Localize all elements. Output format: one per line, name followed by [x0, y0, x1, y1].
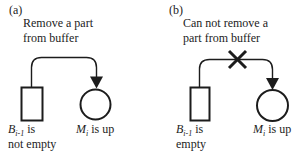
buffer-label-line1: Bi-1 is	[8, 122, 56, 137]
buffer-subscript: i-1	[183, 129, 192, 138]
buffer-label-line1: Bi-1 is	[176, 122, 206, 137]
machine-label-line: Mi is up	[253, 122, 291, 137]
panel-caption: Can not remove a part from buffer	[183, 16, 268, 45]
panel-caption: Remove a part from buffer	[23, 16, 93, 45]
machine-subscript: i	[86, 129, 88, 138]
arrow-path	[200, 60, 273, 88]
buffer-subscript: i-1	[15, 129, 24, 138]
machine-circle	[81, 90, 111, 120]
machine-subscript: i	[263, 129, 265, 138]
arrowhead-icon	[90, 77, 103, 89]
panel-tag: (a)	[9, 3, 22, 17]
buffer-machine-diagram: (a) Remove a part from buffer Bi-1 is no…	[0, 0, 304, 156]
panel-a: (a) Remove a part from buffer Bi-1 is no…	[0, 0, 152, 156]
buffer-label-line2: empty	[176, 137, 206, 152]
panel-b: (b) Can not remove a part from buffer Bi…	[152, 0, 304, 156]
buffer-label-line2: not empty	[8, 137, 56, 152]
buffer-rect	[191, 88, 210, 121]
arrow-path	[32, 58, 97, 88]
caption-line: Remove a part	[23, 16, 93, 31]
caption-line: Can not remove a	[183, 16, 268, 31]
arrowhead-icon	[266, 78, 279, 90]
machine-symbol: M	[76, 122, 86, 136]
machine-circle	[257, 90, 288, 121]
caption-line: from buffer	[23, 31, 93, 46]
caption-line: part from buffer	[183, 31, 268, 46]
machine-suffix: is up	[265, 122, 291, 136]
machine-label: Mi is up	[76, 122, 114, 137]
buffer-label: Bi-1 is empty	[176, 122, 206, 151]
machine-label: Mi is up	[253, 122, 291, 137]
machine-symbol: M	[253, 122, 263, 136]
buffer-suffix: is	[24, 122, 35, 136]
buffer-label: Bi-1 is not empty	[8, 122, 56, 151]
panel-tag: (b)	[169, 3, 183, 17]
buffer-suffix: is	[192, 122, 203, 136]
buffer-rect	[22, 88, 43, 121]
machine-label-line: Mi is up	[76, 122, 114, 137]
machine-suffix: is up	[88, 122, 114, 136]
